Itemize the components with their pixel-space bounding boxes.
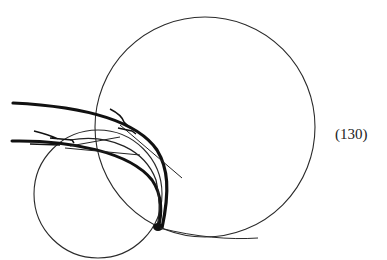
figure-page: (130) — [0, 0, 387, 260]
diagram — [0, 0, 387, 260]
equation-number: (130) — [335, 126, 368, 143]
contact-point — [153, 223, 163, 231]
